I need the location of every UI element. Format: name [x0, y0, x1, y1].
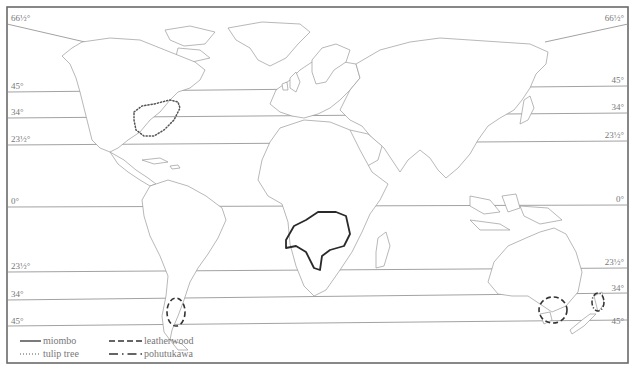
southeast-asia-islands: [470, 194, 562, 230]
central-america: [110, 152, 156, 186]
label-left-34s: 34°: [11, 289, 24, 299]
label-left-tropic-cancer: 23½°: [11, 134, 31, 144]
latitude-labels-right: 66½° 45° 34° 23½° 0° 23½° 34° 45°: [605, 13, 625, 326]
label-right-tropic-capricorn: 23½°: [605, 257, 625, 267]
legend-label-pohutukawa: pohutukawa: [144, 348, 193, 359]
landmasses: [62, 22, 604, 350]
lat-45s-line: [7, 320, 628, 326]
new-zealand: [570, 292, 604, 334]
world-map: 66½° 45° 34° 23½° 0° 23½° 34° 45° 66½° 4…: [0, 0, 634, 371]
legend-label-leatherwood: leatherwood: [144, 335, 193, 346]
label-left-equator: 0°: [11, 196, 20, 206]
caribbean-islands: [142, 158, 180, 169]
label-right-45n: 45°: [611, 75, 624, 85]
label-right-equator: 0°: [616, 194, 625, 204]
label-left-34n: 34°: [11, 107, 24, 117]
legend-label-tulip-tree: tulip tree: [43, 348, 79, 359]
label-left-tropic-capricorn: 23½°: [11, 261, 31, 271]
label-right-45s: 45°: [611, 316, 624, 326]
label-left-45s: 45°: [11, 316, 24, 326]
greenland: [228, 22, 310, 66]
british-isles: [282, 72, 300, 92]
label-right-tropic-cancer: 23½°: [605, 130, 625, 140]
label-left-arctic-circle: 66½°: [11, 13, 31, 23]
madagascar: [376, 232, 390, 268]
legend-label-miombo: miombo: [43, 335, 76, 346]
label-right-34n: 34°: [611, 102, 624, 112]
australia: [488, 228, 582, 312]
latitude-labels-left: 66½° 45° 34° 23½° 0° 23½° 34° 45°: [11, 13, 31, 326]
arctic-circle-line-left: [7, 24, 85, 42]
legend: miombo tulip tree leatherwood pohutukawa: [20, 335, 193, 359]
label-right-34s: 34°: [611, 283, 624, 293]
label-right-arctic-circle: 66½°: [605, 13, 625, 23]
label-left-45n: 45°: [11, 81, 24, 91]
arctic-circle-line-right: [545, 24, 628, 42]
